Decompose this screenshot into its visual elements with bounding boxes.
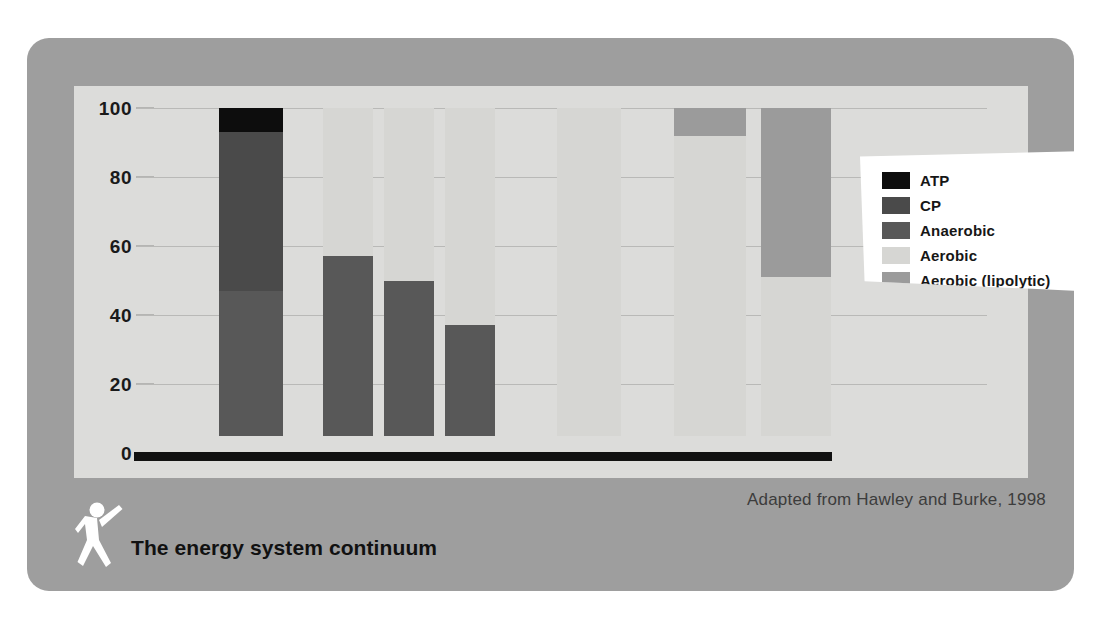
bar-4[interactable] xyxy=(445,108,495,453)
bar-6-segment-aerobic[interactable] xyxy=(674,136,745,436)
bar-7[interactable] xyxy=(761,108,831,453)
source-note: Adapted from Hawley and Burke, 1998 xyxy=(747,490,1046,510)
bar-2-segment-aerobic[interactable] xyxy=(323,108,373,256)
plot-panel: 020406080100 ATPCPAnaerobicAerobicAerobi… xyxy=(74,86,1028,478)
bar-4-segment-anaerobic[interactable] xyxy=(445,325,495,435)
y-tick-label-60: 60 xyxy=(110,237,132,256)
legend-swatch-icon xyxy=(882,247,910,264)
y-axis: 020406080100 xyxy=(84,108,132,453)
legend-item-atp[interactable]: ATP xyxy=(882,169,1088,191)
y-tick-label-40: 40 xyxy=(110,306,132,325)
y-tick-label-100: 100 xyxy=(99,99,132,118)
legend-label: Aerobic xyxy=(920,247,977,264)
bar-3-segment-aerobic[interactable] xyxy=(384,108,434,281)
legend-swatch-icon xyxy=(882,172,910,189)
y-tick-label-0: 0 xyxy=(121,444,132,463)
legend-swatch-icon xyxy=(882,222,910,239)
figure-title: The energy system continuum xyxy=(131,536,437,560)
legend-item-aerobic[interactable]: Aerobic xyxy=(882,244,1088,266)
legend-label: Anaerobic xyxy=(920,222,995,239)
x-axis-baseline xyxy=(134,452,832,461)
bar-1-segment-cp[interactable] xyxy=(219,132,284,291)
bar-1-segment-atp[interactable] xyxy=(219,108,284,132)
figure-card: 020406080100 ATPCPAnaerobicAerobicAerobi… xyxy=(27,38,1074,591)
bar-1[interactable] xyxy=(219,108,284,453)
bar-2[interactable] xyxy=(323,108,373,453)
bar-7-segment-aerobic[interactable] xyxy=(761,277,831,436)
bar-7-segment-aerobic-lipolytic[interactable] xyxy=(761,108,831,277)
y-tick-label-80: 80 xyxy=(110,168,132,187)
bar-6[interactable] xyxy=(674,108,745,453)
legend-label: CP xyxy=(920,197,941,214)
legend-label: ATP xyxy=(920,172,950,189)
legend-item-cp[interactable]: CP xyxy=(882,194,1088,216)
bar-5-segment-aerobic[interactable] xyxy=(557,108,622,436)
bar-1-segment-anaerobic[interactable] xyxy=(219,291,284,436)
y-tick-label-20: 20 xyxy=(110,375,132,394)
legend-item-anaerobic[interactable]: Anaerobic xyxy=(882,219,1088,241)
bar-4-segment-aerobic[interactable] xyxy=(445,108,495,325)
chart-legend: ATPCPAnaerobicAerobicAerobic (lipolytic) xyxy=(860,151,1088,291)
legend-swatch-icon xyxy=(882,197,910,214)
bar-3-segment-anaerobic[interactable] xyxy=(384,281,434,436)
bar-5[interactable] xyxy=(557,108,622,453)
bar-3[interactable] xyxy=(384,108,434,453)
running-person-logo xyxy=(75,500,127,574)
bar-6-segment-aerobic-lipolytic[interactable] xyxy=(674,108,745,136)
bar-2-segment-anaerobic[interactable] xyxy=(323,256,373,435)
plot-area xyxy=(137,108,987,453)
